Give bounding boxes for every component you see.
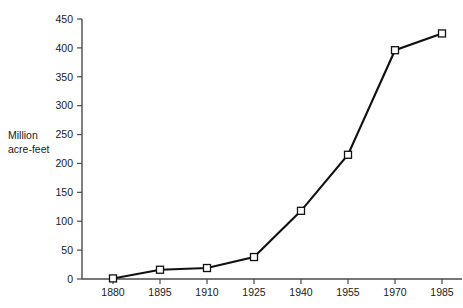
data-point-marker [204,265,211,272]
y-tick-label: 0 [67,273,73,285]
x-tick-label: 1880 [101,286,125,298]
data-point-marker [345,151,352,158]
y-tick-label: 100 [55,215,73,227]
chart-canvas: 050100150200250300350400450 188018951910… [0,0,463,308]
line-chart: 050100150200250300350400450 188018951910… [0,0,463,308]
data-point-marker [110,275,117,282]
data-point-marker [439,30,446,37]
y-tick-label: 50 [61,244,73,256]
x-tick-label: 1985 [430,286,454,298]
x-tick-label: 1925 [242,286,266,298]
data-point-marker [298,207,305,214]
y-tick-label: 300 [55,99,73,111]
y-tick-label: 400 [55,42,73,54]
y-tick-label: 250 [55,128,73,140]
data-point-marker [157,266,164,273]
x-tick-label: 1970 [383,286,407,298]
y-axis-label-line2: acre-feet [8,143,50,155]
y-tick-label: 350 [55,71,73,83]
data-point-marker [251,254,258,261]
y-tick-label: 450 [55,13,73,25]
y-tick-label: 200 [55,157,73,169]
x-tick-label: 1895 [148,286,172,298]
data-point-marker [392,47,399,54]
x-tick-label: 1910 [195,286,219,298]
y-tick-label: 150 [55,186,73,198]
x-tick-label: 1955 [336,286,360,298]
x-tick-label: 1940 [289,286,313,298]
y-axis-label-line1: Million [8,129,38,141]
